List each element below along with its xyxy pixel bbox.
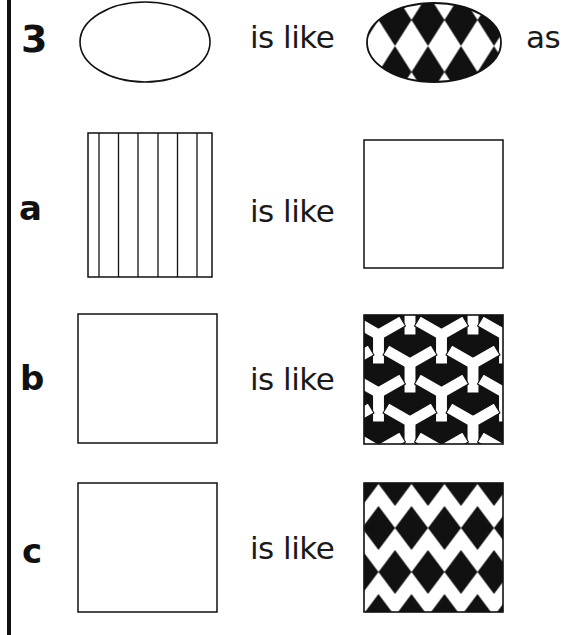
option-c-is-like-text: is like	[250, 533, 334, 564]
option-c-label: c	[22, 534, 42, 568]
blank-ellipse	[78, 0, 214, 86]
option-b-is-like-text: is like	[250, 364, 334, 395]
option-c-blank-square	[77, 482, 219, 614]
harlequin-ellipse	[364, 0, 506, 86]
striped-rectangle	[87, 132, 214, 279]
y-tessellation-square	[363, 314, 505, 445]
option-a-answer-square	[363, 139, 505, 270]
option-b-label: b	[20, 361, 44, 395]
left-margin-bar	[7, 0, 11, 635]
option-a-is-like-text: is like	[250, 196, 334, 227]
question-number: 3	[21, 20, 47, 58]
harlequin-square	[363, 482, 505, 614]
as-text: as	[526, 22, 560, 53]
option-b-blank-square	[77, 313, 219, 445]
option-a-label: a	[19, 191, 42, 225]
is-like-text: is like	[250, 22, 334, 53]
